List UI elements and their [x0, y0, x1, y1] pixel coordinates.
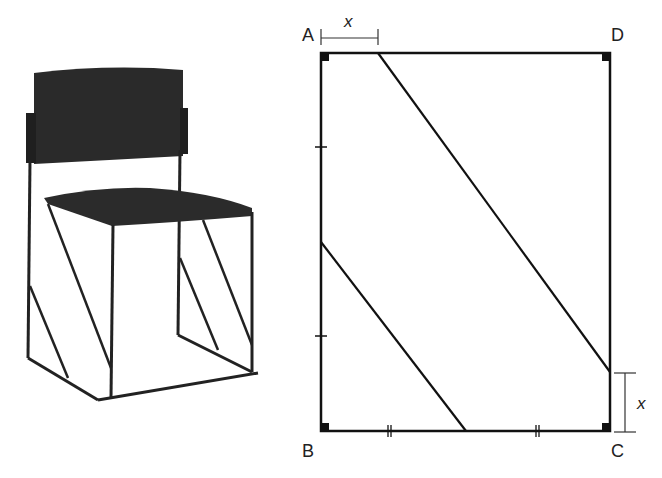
top-x-label: x [343, 12, 353, 31]
vertex-label-a: A [302, 25, 314, 45]
right-angle-mark-b [322, 423, 329, 430]
geometry-diagram: A D B C x x [0, 0, 662, 478]
right-angle-mark-c [602, 423, 609, 430]
rectangle-abcd [321, 53, 610, 431]
right-dimension-x [614, 373, 636, 432]
vertex-label-b: B [302, 441, 314, 461]
vertex-label-d: D [611, 25, 624, 45]
right-angle-mark-d [602, 54, 609, 61]
top-dimension-x [321, 29, 378, 45]
lower-diagonal [321, 242, 466, 431]
upper-diagonal [378, 53, 610, 372]
right-angle-mark-a [322, 54, 329, 61]
vertex-label-c: C [611, 441, 624, 461]
right-x-label: x [636, 394, 646, 413]
